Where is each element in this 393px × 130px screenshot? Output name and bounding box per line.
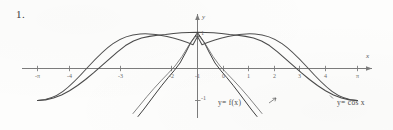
coordinate-plot [0,0,393,130]
cos-label-arrow [330,96,333,99]
x-axis-label: x [366,52,369,60]
x-tick-label-0: 0 [222,73,225,79]
x-tick-label-neg-4: -4 [67,73,72,79]
x-tick-label-neg-pi: -π [35,73,40,79]
y-axis-label: y [202,13,205,21]
math-figure: 1. [0,0,393,130]
y-tick-label-pos-1: 1 [201,30,204,36]
label-leaders [269,96,333,104]
x-tick-label-pi: π [356,73,359,79]
cosine-curve-label: y= cos x [337,98,365,107]
x-tick-label-2: 2 [273,73,276,79]
x-tick-label-4: 4 [324,73,327,79]
y-axis-arrowhead [195,14,200,20]
approximating-curve-label: y= f(x) [218,98,241,107]
x-tick-label-1: 1 [247,73,250,79]
x-tick-label-3: 3 [298,73,301,79]
axes-group [22,14,372,118]
x-tick-label-neg-2: -2 [169,73,174,79]
x-tick-label-neg-3: -3 [118,73,123,79]
x-tick-label-neg-1: -1 [195,73,200,79]
x-axis-arrowhead [366,66,372,71]
y-tick-label-neg-1: -1 [201,95,206,101]
